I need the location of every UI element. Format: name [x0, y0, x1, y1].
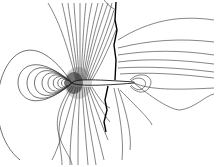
- downstream-contours: [104, 0, 214, 160]
- dense-leading-edge-region: [64, 67, 92, 99]
- contour-plot: [0, 0, 216, 167]
- contour-figure: [0, 0, 216, 167]
